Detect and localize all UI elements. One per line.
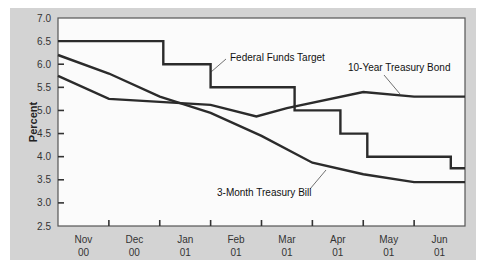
x-tick-month: Nov bbox=[75, 234, 93, 245]
x-tick-year: 00 bbox=[78, 247, 90, 258]
x-tick-month: Dec bbox=[125, 234, 143, 245]
x-tick-year: 01 bbox=[383, 247, 395, 258]
y-tick-label: 6.0 bbox=[37, 59, 51, 70]
y-axis-title: Percent bbox=[27, 101, 39, 142]
treasury-bill-label: 3-Month Treasury Bill bbox=[217, 187, 311, 198]
x-tick-year: 00 bbox=[129, 247, 141, 258]
y-tick-label: 5.5 bbox=[37, 82, 51, 93]
line-chart: 7.06.56.05.55.04.54.03.53.02.5 Nov00Dec0… bbox=[0, 0, 483, 271]
x-tick-month: Jan bbox=[177, 234, 193, 245]
y-tick-label: 3.0 bbox=[37, 197, 51, 208]
x-tick-year: 01 bbox=[231, 247, 243, 258]
x-tick-month: Apr bbox=[330, 234, 346, 245]
x-tick-month: Feb bbox=[227, 234, 245, 245]
x-tick-month: Jun bbox=[432, 234, 448, 245]
y-tick-label: 5.0 bbox=[37, 105, 51, 116]
x-tick-month: May bbox=[379, 234, 398, 245]
y-tick-label: 4.5 bbox=[37, 128, 51, 139]
y-tick-label: 7.0 bbox=[37, 13, 51, 24]
x-tick-year: 01 bbox=[281, 247, 293, 258]
x-tick-year: 01 bbox=[434, 247, 446, 258]
treasury-bond-label: 10-Year Treasury Bond bbox=[348, 62, 450, 73]
y-tick-label: 3.5 bbox=[37, 174, 51, 185]
fed-funds-label: Federal Funds Target bbox=[230, 52, 325, 63]
x-tick-month: Mar bbox=[278, 234, 296, 245]
x-tick-year: 01 bbox=[332, 247, 344, 258]
y-tick-label: 6.5 bbox=[37, 36, 51, 47]
y-tick-label: 4.0 bbox=[37, 151, 51, 162]
x-tick-year: 01 bbox=[180, 247, 192, 258]
y-tick-label: 2.5 bbox=[37, 221, 51, 232]
